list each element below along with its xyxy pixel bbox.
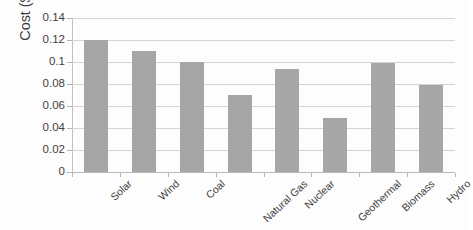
bar-nuclear[interactable] — [275, 69, 299, 172]
bar-natural-gas[interactable] — [228, 95, 252, 172]
bar-hydro[interactable] — [419, 85, 443, 172]
gridline — [72, 84, 455, 85]
y-tick-label: 0.1 — [5, 56, 65, 68]
x-tick-mark — [120, 173, 121, 177]
bar-coal[interactable] — [180, 62, 204, 172]
x-tick-mark — [455, 173, 456, 177]
x-tick-mark — [311, 173, 312, 177]
x-tick-label-wind: Wind — [156, 178, 181, 203]
x-tick-mark — [264, 173, 265, 177]
bar-biomass[interactable] — [371, 63, 395, 172]
x-tick-label-hydro: Hydro — [445, 178, 473, 206]
x-tick-label-nuclear: Nuclear — [303, 178, 337, 211]
y-tick-label: 0.14 — [5, 12, 65, 24]
bar-geothermal[interactable] — [323, 118, 347, 172]
gridline — [72, 40, 455, 41]
x-tick-mark — [359, 173, 360, 177]
y-tick-label: 0.06 — [5, 100, 65, 112]
y-tick-label: 0.08 — [5, 78, 65, 90]
bar-wind[interactable] — [132, 51, 156, 172]
y-tick-label: 0.04 — [5, 122, 65, 134]
x-tick-label-geothermal: Geothermal — [356, 178, 404, 224]
x-tick-label-biomass: Biomass — [400, 178, 437, 214]
x-tick-mark — [216, 173, 217, 177]
y-tick-label: 0.12 — [5, 34, 65, 46]
gridline — [72, 150, 455, 151]
gridline — [72, 106, 455, 107]
gridline — [72, 128, 455, 129]
gridline — [72, 18, 455, 19]
x-tick-mark — [168, 173, 169, 177]
x-tick-label-coal: Coal — [203, 178, 227, 201]
x-tick-mark — [72, 173, 73, 177]
plot-area — [72, 18, 455, 172]
x-tick-mark — [407, 173, 408, 177]
bar-solar[interactable] — [84, 40, 108, 172]
y-tick-label: 0.02 — [5, 144, 65, 156]
y-tick-label: 0 — [5, 166, 65, 178]
x-tick-label-solar: Solar — [109, 178, 135, 203]
gridline — [72, 62, 455, 63]
